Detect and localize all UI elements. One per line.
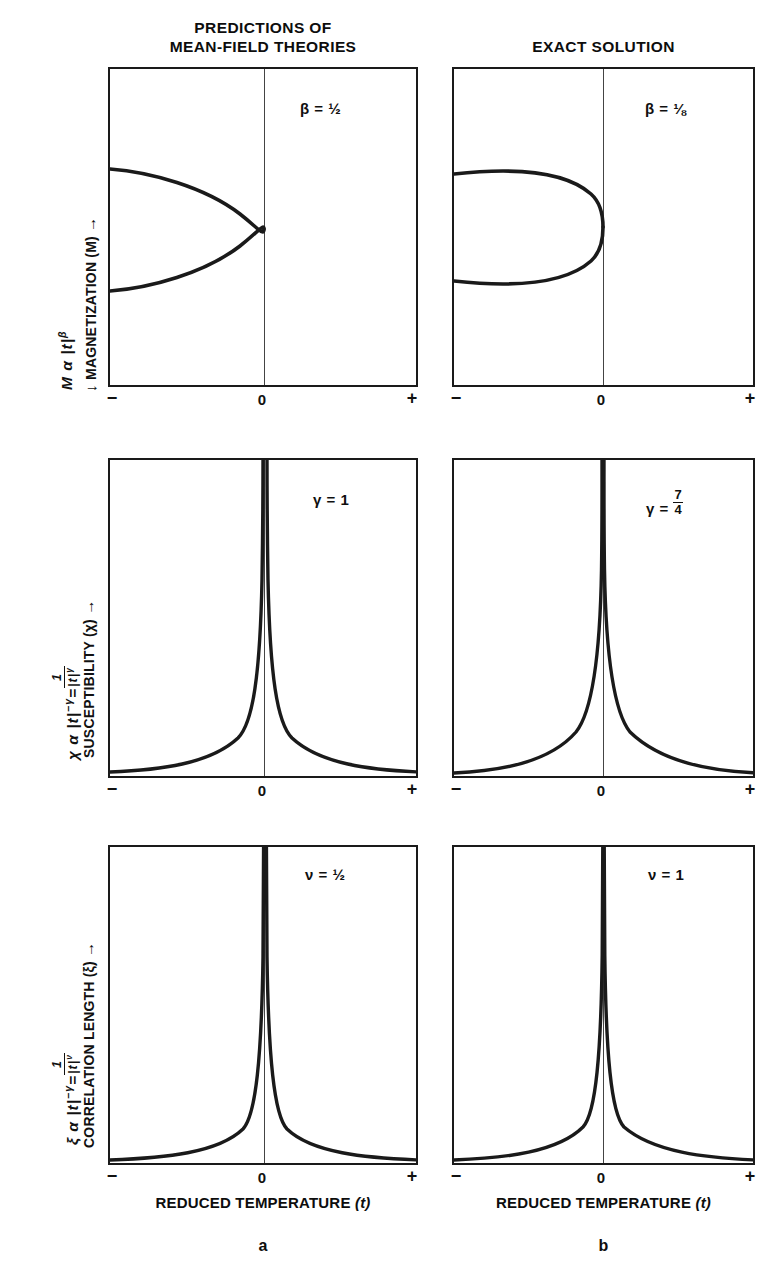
xaxis-title-b: REDUCED TEMPERATURE (t)	[452, 1194, 755, 1211]
panel-letter-a: a	[108, 1237, 418, 1255]
curve-susceptibility-exact	[454, 460, 755, 778]
plot-correlation-length-exact	[452, 845, 755, 1165]
column-header-line1: PREDICTIONS OF	[108, 18, 418, 37]
fraction-correlation-length: 1|t|ν	[51, 1053, 81, 1075]
xaxis-ticks-row3-b: − 0 +	[452, 1169, 755, 1189]
column-header-mean-field: PREDICTIONS OF MEAN-FIELD THEORIES	[108, 18, 418, 56]
row-label-magnetization: M α |t|β	[56, 330, 76, 390]
axis-arrow-up-icon: →	[80, 942, 97, 957]
row-label-susceptibility: χ α |t|−γ=1|t|γ	[52, 666, 82, 760]
annotation-nu-mean-field: ν = ½	[305, 866, 345, 883]
annotation-nu-exact: ν = 1	[648, 866, 684, 883]
fraction-susceptibility: 1|t|γ	[51, 666, 81, 688]
curve-correlation-length-exact	[454, 847, 755, 1165]
plot-magnetization-mean-field	[108, 67, 418, 387]
axis-arrow-up-icon: →	[80, 600, 97, 615]
xaxis-ticks-row3-a: − 0 +	[108, 1169, 418, 1189]
column-header-exact: EXACT SOLUTION	[452, 37, 755, 56]
plot-correlation-length-mean-field	[108, 845, 418, 1165]
annotation-beta-mean-field: β = ½	[300, 100, 341, 117]
curve-magnetization-exact	[454, 69, 755, 387]
plot-susceptibility-mean-field	[108, 458, 418, 778]
row-formula-magnetization: M α |t|β	[58, 330, 75, 390]
axis-arrow-up-icon: →	[82, 217, 99, 232]
row-formula-correlation-length: ξ α |t|−γ=1|t|ν	[64, 1053, 81, 1145]
row-formula-susceptibility: χ α |t|−γ=1|t|γ	[64, 666, 81, 760]
panel-letter-b: b	[452, 1237, 755, 1255]
column-header-line1: EXACT SOLUTION	[452, 37, 755, 56]
row-caption-susceptibility: SUSCEPTIBILITY (χ) →	[80, 600, 97, 758]
xaxis-ticks-row2-b: − 0 +	[452, 782, 755, 802]
row-caption-correlation-length: CORRELATION LENGTH (ξ) →	[80, 942, 97, 1148]
curve-correlation-length-mean-field	[110, 847, 418, 1165]
axis-arrow-down-icon: ↓	[82, 384, 99, 392]
critical-exponents-figure: PREDICTIONS OF MEAN-FIELD THEORIES EXACT…	[0, 0, 778, 1274]
xaxis-ticks-row2-a: − 0 +	[108, 782, 418, 802]
annotation-gamma-mean-field: γ = 1	[313, 491, 349, 508]
xaxis-ticks-row1-a: − 0 +	[108, 391, 418, 411]
xaxis-title-a: REDUCED TEMPERATURE (t)	[108, 1194, 418, 1211]
plot-magnetization-exact	[452, 67, 755, 387]
annotation-beta-exact: β = ⅛	[645, 100, 686, 117]
fraction-gamma-exact: 74	[673, 488, 683, 517]
row-label-correlation-length: ξ α |t|−γ=1|t|ν	[52, 1053, 82, 1145]
annotation-gamma-exact: γ = 74	[646, 489, 683, 518]
row-caption-magnetization: ↓ MAGNETIZATION (M) →	[82, 217, 99, 392]
column-header-line2: MEAN-FIELD THEORIES	[108, 37, 418, 56]
curve-magnetization-mean-field	[110, 69, 418, 387]
plot-susceptibility-exact	[452, 458, 755, 778]
curve-susceptibility-mean-field	[110, 460, 418, 778]
xaxis-ticks-row1-b: − 0 +	[452, 391, 755, 411]
